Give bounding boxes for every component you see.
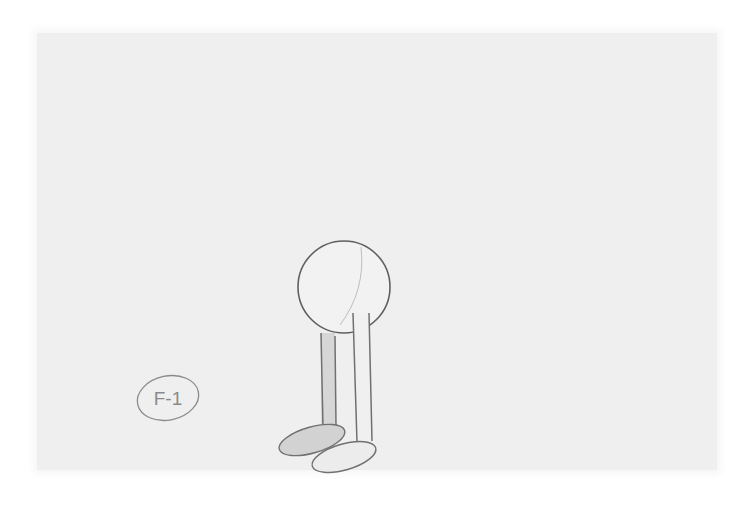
body-circle — [298, 241, 390, 333]
frame-label-text: F-1 — [154, 388, 183, 409]
frame-label: F-1 — [133, 370, 203, 426]
back-leg — [276, 333, 349, 462]
front-leg — [309, 313, 380, 479]
pencil-drawing: F-1 — [0, 0, 750, 521]
